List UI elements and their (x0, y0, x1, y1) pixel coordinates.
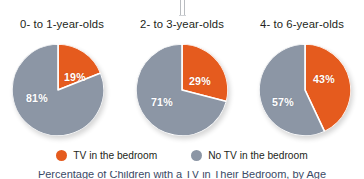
legend: TV in the bedroom No TV in the bedroom (0, 147, 364, 164)
legend-label-no-tv: No TV in the bedroom (208, 150, 307, 161)
legend-item-tv: TV in the bedroom (56, 150, 157, 161)
pie-chart-0: 19% 81% (12, 44, 104, 136)
figure-caption-clipped: Percentage of Children with a TV in Thei… (0, 171, 364, 179)
pie-2-slice-1-label: 57% (272, 96, 294, 108)
pie-chart-1: 29% 71% (136, 44, 228, 136)
chart-figure: 0- to 1-year-olds 2- to 3-year-olds 4- t… (0, 0, 364, 179)
pie-0-slice-0-label: 19% (64, 71, 86, 83)
pie-body-0 (12, 44, 104, 136)
page-fold-cap (179, 15, 186, 16)
pie-1-slice-0-label: 29% (189, 75, 211, 87)
pie-2-slice-0-label: 43% (313, 73, 335, 85)
circle-swatch-icon (56, 150, 67, 161)
pie-body-1 (136, 44, 228, 136)
page-fold-rule-left (180, 0, 181, 16)
figure-caption: Percentage of Children with a TV in Thei… (0, 171, 364, 179)
chart-title-1: 2- to 3-year-olds (120, 18, 244, 30)
chart-title-0: 0- to 1-year-olds (0, 18, 124, 30)
legend-label-tv: TV in the bedroom (73, 150, 157, 161)
pie-chart-2: 43% 57% (259, 44, 351, 136)
pie-0-slice-1-label: 81% (26, 92, 48, 104)
pie-1-slice-1-label: 71% (151, 96, 173, 108)
legend-item-no-tv: No TV in the bedroom (191, 150, 307, 161)
page-fold-rule-right (184, 0, 185, 16)
circle-swatch-icon (191, 150, 202, 161)
pie-body-2 (259, 44, 351, 136)
chart-title-2: 4- to 6-year-olds (240, 18, 364, 30)
chart-titles: 0- to 1-year-olds 2- to 3-year-olds 4- t… (0, 18, 364, 34)
